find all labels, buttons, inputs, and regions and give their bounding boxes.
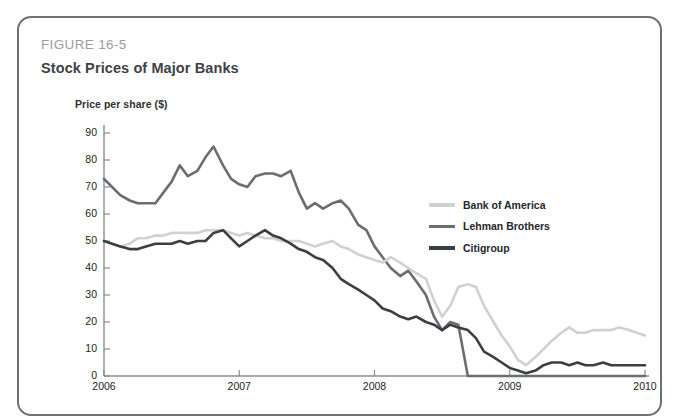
legend-label: Bank of America — [463, 199, 545, 211]
x-axis-tick-label: 2007 — [217, 380, 261, 392]
data-line-bank-of-america — [104, 230, 645, 365]
legend-item-lehman-brothers: Lehman Brothers — [429, 216, 550, 238]
x-axis-tick-label: 2008 — [353, 380, 397, 392]
legend-item-citigroup: Citigroup — [429, 237, 550, 259]
data-line-citigroup — [104, 230, 645, 373]
x-axis-tick-label: 2010 — [623, 380, 667, 392]
legend-swatch-citigroup — [429, 246, 455, 250]
y-axis-title: Price per share ($) — [75, 98, 168, 110]
x-axis-tick-label: 2009 — [488, 380, 532, 392]
legend-swatch-lehman-brothers — [429, 225, 455, 229]
y-axis-tick-label: 50 — [71, 234, 97, 246]
y-axis-tick-label: 60 — [71, 207, 97, 219]
y-axis-tick-label: 20 — [71, 315, 97, 327]
chart-plot-area: Price per share ($) 0102030405060708090 … — [19, 18, 664, 418]
y-axis-tick-label: 40 — [71, 261, 97, 273]
legend-swatch-bank-of-america — [429, 203, 455, 207]
y-axis-tick-label: 70 — [71, 180, 97, 192]
y-axis-tick-label: 90 — [71, 126, 97, 138]
y-axis-tick-label: 30 — [71, 288, 97, 300]
chart-legend: Bank of AmericaLehman BrothersCitigroup — [429, 194, 550, 259]
y-axis-tick-label: 80 — [71, 153, 97, 165]
line-chart-svg — [19, 18, 664, 418]
y-axis-tick-label: 10 — [71, 342, 97, 354]
legend-label: Lehman Brothers — [463, 220, 550, 232]
legend-item-bank-of-america: Bank of America — [429, 194, 550, 216]
legend-label: Citigroup — [463, 242, 510, 254]
figure-card: FIGURE 16-5 Stock Prices of Major Banks … — [17, 16, 662, 416]
x-axis-tick-label: 2006 — [82, 380, 126, 392]
